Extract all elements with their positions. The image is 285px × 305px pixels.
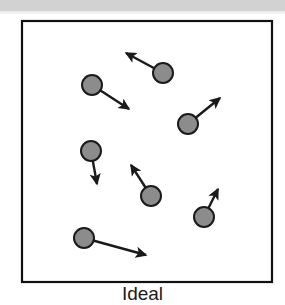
particle-circle <box>141 186 161 206</box>
figure-caption: Ideal <box>0 283 285 305</box>
particle-circle <box>82 75 102 95</box>
particle-circle <box>153 63 173 83</box>
particle-circle <box>74 228 94 248</box>
particle-circle <box>194 207 214 227</box>
container-box <box>22 21 272 282</box>
particle-circle <box>81 141 101 161</box>
particle-circle <box>178 114 198 134</box>
ideal-gas-figure: Ideal <box>0 0 285 305</box>
particle-diagram <box>0 0 285 305</box>
